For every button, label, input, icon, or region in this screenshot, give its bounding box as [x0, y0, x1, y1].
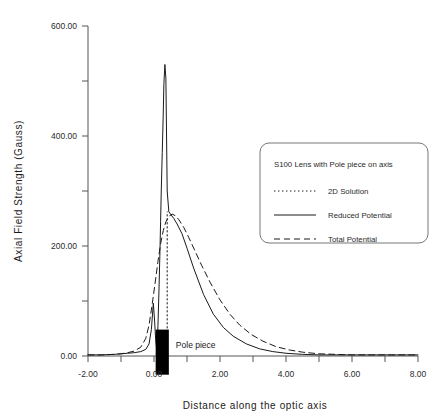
x-tick-label: 8.00 [410, 369, 427, 379]
pole-piece-label: Pole piece [176, 340, 216, 350]
x-tick-label: 2.00 [212, 369, 229, 379]
legend-title: S100 Lens with Pole piece on axis [274, 160, 393, 169]
legend-label: Total Potential [328, 235, 377, 244]
x-tick-label: 0.00 [146, 369, 163, 379]
y-tick-label: 0.00 [60, 351, 77, 361]
x-tick-label: 6.00 [344, 369, 361, 379]
legend-box: S100 Lens with Pole piece on axis2D Solu… [260, 143, 428, 244]
y-tick-label: 600.00 [51, 21, 77, 31]
y-tick-label: 200.00 [51, 241, 77, 251]
legend-label: 2D Solution [328, 187, 368, 196]
x-tick-label: -2.00 [78, 369, 98, 379]
axial-field-strength-chart: Pole piece -2.000.002.004.006.008.000.00… [0, 0, 443, 417]
chart-container: Pole piece -2.000.002.004.006.008.000.00… [0, 0, 443, 417]
legend-label: Reduced Potential [328, 211, 392, 220]
y-axis-title: Axial Field Strength (Gauss) [13, 120, 24, 262]
x-axis-title: Distance along the optic axis [183, 400, 328, 411]
y-tick-label: 400.00 [51, 131, 77, 141]
x-tick-label: 4.00 [278, 369, 295, 379]
pole-piece-block [156, 330, 169, 375]
